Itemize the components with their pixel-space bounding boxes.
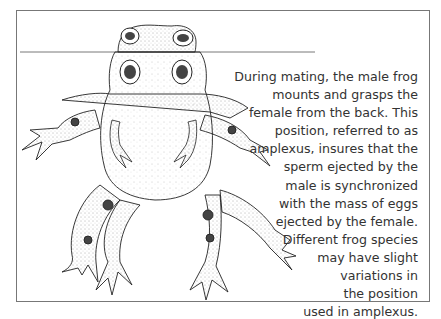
caption-line: sperm ejected by the xyxy=(218,158,418,176)
male-frog-head xyxy=(118,25,196,52)
caption-line: amplexus, insures that the xyxy=(218,140,418,158)
caption-text: During mating, the male frog mounts and … xyxy=(218,68,418,319)
caption-line: the position xyxy=(218,285,418,303)
caption-line: female from the back. This xyxy=(218,104,418,122)
caption-line: position, referred to as xyxy=(218,122,418,140)
caption-line: During mating, the male frog xyxy=(218,68,418,86)
caption-line: variations in xyxy=(218,267,418,285)
caption-line: with the mass of eggs xyxy=(218,195,418,213)
caption-line: mounts and grasps the xyxy=(218,86,418,104)
caption-line: used in amplexus. xyxy=(218,303,418,319)
caption-line: ejected by the female. xyxy=(218,213,418,231)
caption-line: male is synchronized xyxy=(218,177,418,195)
caption-line: may have slight xyxy=(218,249,418,267)
caption-line: Different frog species xyxy=(218,231,418,249)
